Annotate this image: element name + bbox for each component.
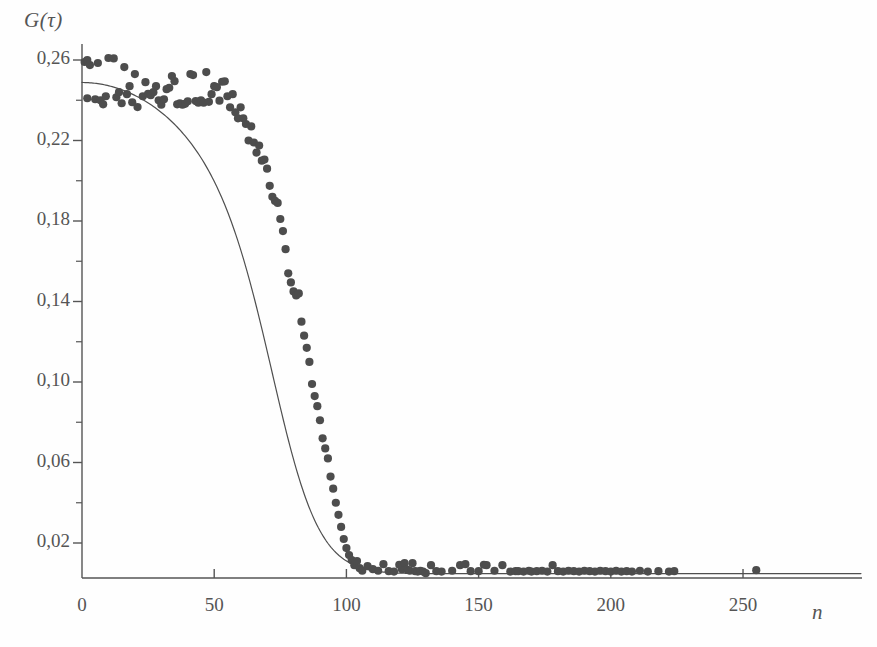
x-axis-tick-label-5: 250 [713, 594, 773, 616]
data-point [284, 269, 292, 277]
data-point [340, 535, 348, 543]
data-point [379, 560, 387, 568]
data-point [337, 523, 345, 531]
data-point [498, 561, 506, 569]
data-point [123, 90, 131, 98]
y-axis-tick-label-1: 0,06 [8, 450, 70, 472]
data-point [303, 344, 311, 352]
data-point [329, 485, 337, 493]
data-point [287, 278, 295, 286]
data-point [215, 97, 223, 105]
data-point [448, 567, 456, 575]
data-point [160, 95, 168, 103]
data-point [165, 84, 173, 92]
x-axis-tick-label-1: 50 [184, 594, 244, 616]
data-point [118, 99, 126, 107]
data-point [184, 97, 192, 105]
data-point [324, 454, 332, 462]
x-axis-tick-label-4: 200 [581, 594, 641, 616]
data-point [274, 199, 282, 207]
data-point [461, 560, 469, 568]
data-point [115, 88, 123, 96]
fitted-curve [82, 82, 861, 573]
data-point [83, 94, 91, 102]
data-point [636, 567, 644, 575]
data-point [266, 182, 274, 190]
data-point [99, 100, 107, 108]
chart-plot-area [0, 0, 877, 647]
data-point [342, 544, 350, 552]
y-axis-tick-label-5: 0,22 [8, 128, 70, 150]
data-point [260, 156, 268, 164]
data-point [390, 567, 398, 575]
data-point [237, 103, 245, 111]
data-point [654, 567, 662, 575]
data-point [247, 122, 255, 130]
data-point [422, 569, 430, 577]
y-axis-tick-label-6: 0,26 [8, 47, 70, 69]
x-axis-tick-label-0: 0 [52, 594, 112, 616]
data-point [543, 567, 551, 575]
data-point [313, 402, 321, 410]
data-point [670, 567, 678, 575]
data-point [374, 567, 382, 575]
data-point [94, 59, 102, 67]
data-point [281, 245, 289, 253]
data-point [332, 499, 340, 507]
data-point [170, 77, 178, 85]
data-point [279, 227, 287, 235]
y-axis-tick-label-2: 0,10 [8, 369, 70, 391]
data-point [475, 567, 483, 575]
data-point [316, 416, 324, 424]
y-axis-tick-label-4: 0,18 [8, 208, 70, 230]
data-point [133, 103, 141, 111]
y-axis-tick-label-0: 0,02 [8, 530, 70, 552]
data-point [308, 380, 316, 388]
data-point [300, 332, 308, 340]
data-point [305, 358, 313, 366]
y-axis-title: G(τ) [24, 8, 63, 33]
data-point [255, 141, 263, 149]
data-point [297, 318, 305, 326]
data-point [86, 61, 94, 69]
data-point [482, 561, 490, 569]
data-point [229, 90, 237, 98]
data-point [141, 78, 149, 86]
data-point [205, 98, 213, 106]
y-axis-tick-label-3: 0,14 [8, 289, 70, 311]
data-point [490, 567, 498, 575]
data-point [408, 559, 416, 567]
data-point [276, 215, 284, 223]
data-point [189, 71, 197, 79]
data-point [110, 54, 118, 62]
data-point [202, 68, 210, 76]
data-point [102, 92, 110, 100]
data-point [628, 567, 636, 575]
data-point [207, 90, 215, 98]
x-axis-tick-label-3: 150 [449, 594, 509, 616]
x-axis-title: n [812, 600, 823, 625]
figure-canvas: G(τ) n 0,020,060,100,140,180,220,26 0501… [0, 0, 877, 647]
data-point [319, 434, 327, 442]
data-point [221, 77, 229, 85]
data-point [437, 567, 445, 575]
x-axis-tick-label-2: 100 [316, 594, 376, 616]
data-point [120, 63, 128, 71]
data-point [311, 392, 319, 400]
data-point [125, 82, 133, 90]
data-point [152, 82, 160, 90]
data-point [644, 567, 652, 575]
data-point [321, 444, 329, 452]
data-point [326, 472, 334, 480]
data-point [263, 165, 271, 173]
data-point [334, 511, 342, 519]
data-point [295, 289, 303, 297]
data-point [131, 70, 139, 78]
data-point [752, 566, 760, 574]
data-point [467, 567, 475, 575]
data-point [252, 148, 260, 156]
data-point [353, 557, 361, 565]
